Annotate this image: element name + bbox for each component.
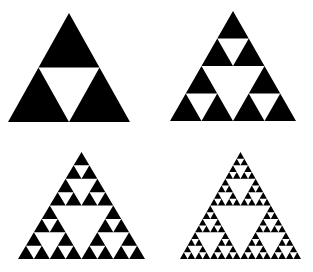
sierpinski-panel-3 [18,152,145,259]
gasket-path-depth-2 [170,11,296,121]
sierpinski-panel-4 [180,152,301,259]
sierpinski-figure [0,0,313,272]
sierpinski-svg-iteration-1 [8,13,130,122]
gasket-path-depth-4 [180,152,301,259]
sierpinski-svg-iteration-2 [170,11,296,121]
gasket-path-depth-3 [18,152,145,259]
gasket-path-depth-1 [8,13,130,122]
sierpinski-svg-iteration-3 [18,152,145,259]
sierpinski-svg-iteration-4 [180,152,301,259]
sierpinski-panel-1 [8,13,130,122]
sierpinski-panel-2 [170,11,296,121]
